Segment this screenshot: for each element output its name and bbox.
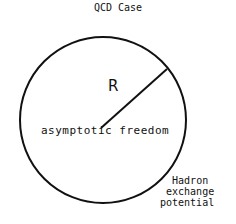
radius-label: R [108,77,118,95]
outer-label-line-2: exchange [160,186,214,197]
outer-region-label: Hadron exchange potential [160,175,214,208]
outer-label-line-1: Hadron [160,175,214,186]
outer-label-line-3: potential [160,197,214,208]
inner-region-label: asymptotic freedom [41,124,169,137]
